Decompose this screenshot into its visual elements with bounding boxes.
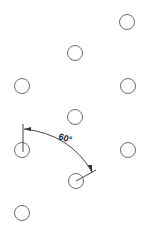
dimension-arc	[24, 129, 92, 172]
hole-circle-icon	[15, 143, 30, 158]
extension-line-right	[76, 170, 96, 181]
hole-circle-icon	[121, 79, 136, 94]
arrowhead-left-icon	[24, 127, 31, 131]
hole-circle-icon	[15, 206, 30, 221]
hole-circle-icon	[68, 110, 83, 125]
angle-label: 60°	[57, 131, 73, 145]
drawing-canvas: 60°	[0, 0, 146, 238]
holes-group	[15, 15, 136, 221]
hole-circle-icon	[121, 143, 136, 158]
hole-circle-icon	[15, 79, 30, 94]
hole-circle-icon	[68, 46, 83, 61]
angle-dimension: 60°	[23, 124, 96, 181]
hole-circle-icon	[120, 15, 135, 30]
